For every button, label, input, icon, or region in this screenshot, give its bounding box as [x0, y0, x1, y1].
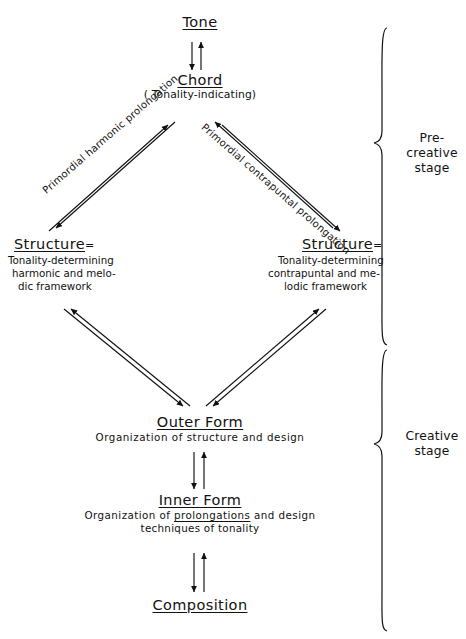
inner-form-sub-b: and design	[250, 509, 315, 521]
node-structure-left: Structure= Tonality-determining harmonic…	[8, 236, 188, 294]
structure-right-line-1: Tonality-determining	[268, 254, 448, 267]
stage-pre-creative-line-1: Pre-creative	[398, 131, 466, 161]
stage-label-pre-creative: Pre-creative stage	[398, 131, 466, 175]
node-composition-title: Composition	[0, 597, 400, 614]
diagram-canvas: Tone Chord ( Tonality-indicating) Struct…	[0, 0, 466, 639]
inner-form-sub-a: Organization of	[85, 509, 175, 521]
structure-left-line-3: dic framework	[8, 280, 188, 293]
arrow-chord-to-structure-left	[56, 122, 175, 228]
stage-pre-creative-line-2: stage	[398, 161, 466, 176]
node-structure-left-body: Tonality-determining harmonic and melo- …	[8, 254, 188, 294]
stage-label-creative: Creative stage	[400, 429, 464, 459]
node-inner-form-subtitle: Organization of prolongations and design	[0, 509, 400, 521]
arrow-structure-right-to-chord	[215, 122, 333, 228]
structure-right-line-3: lodic framework	[268, 280, 448, 293]
node-outer-form: Outer Form Organization of structure and…	[0, 414, 400, 443]
node-chord-title: Chord	[0, 72, 400, 89]
stage-creative-line-1: Creative	[400, 429, 464, 444]
node-structure-left-title: Structure=	[14, 236, 188, 253]
node-inner-form: Inner Form Organization of prolongations…	[0, 492, 400, 534]
node-outer-form-subtitle: Organization of structure and design	[0, 431, 400, 443]
node-composition: Composition	[0, 597, 400, 614]
arrow-structure-right-to-outer	[213, 309, 326, 406]
node-tone-title: Tone	[0, 14, 400, 31]
node-tone: Tone	[0, 14, 400, 31]
arrow-structure-left-to-outer	[64, 309, 183, 406]
node-outer-form-title: Outer Form	[0, 414, 400, 431]
inner-form-prolongations: prolongations	[174, 509, 250, 521]
node-structure-right-body: Tonality-determining contrapuntal and me…	[268, 254, 448, 294]
structure-right-line-2: contrapuntal and me-	[268, 267, 448, 280]
node-structure-right: Structure= Tonality-determining contrapu…	[268, 236, 448, 294]
node-inner-form-subtitle-2: techniques of tonality	[0, 522, 400, 534]
node-inner-form-title: Inner Form	[0, 492, 400, 509]
arrow-chord-to-structure-right	[222, 125, 340, 231]
arrow-outer-to-structure-right	[206, 309, 319, 406]
stage-creative-line-2: stage	[400, 444, 464, 459]
arrow-outer-to-structure-left	[71, 309, 190, 406]
brace-creative	[374, 350, 387, 631]
structure-left-line-2: harmonic and melo-	[8, 267, 188, 280]
node-chord-subtitle: ( Tonality-indicating)	[0, 89, 400, 102]
structure-left-line-1: Tonality-determining	[8, 254, 188, 267]
node-chord: Chord ( Tonality-indicating)	[0, 72, 400, 102]
